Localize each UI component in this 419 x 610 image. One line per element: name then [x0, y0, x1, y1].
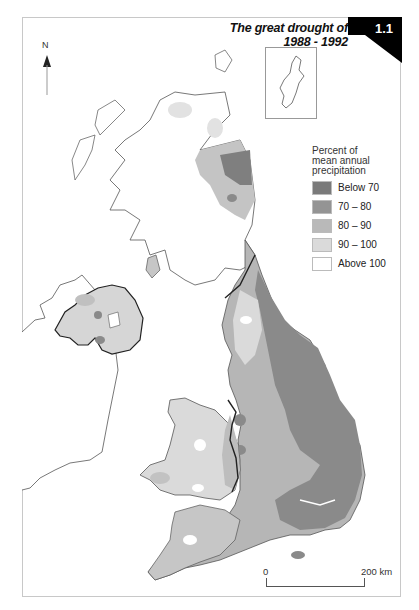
- legend-label: 70 – 80: [338, 201, 371, 212]
- legend-label: Above 100: [338, 258, 386, 269]
- legend-item: Below 70: [312, 180, 402, 195]
- legend-swatch: [312, 257, 332, 271]
- legend-item: 80 – 90: [312, 218, 402, 233]
- north-arrow-icon: [40, 40, 54, 100]
- scale-start-label: 0: [263, 566, 268, 577]
- legend-title-line: precipitation: [312, 166, 402, 176]
- legend-item: 70 – 80: [312, 199, 402, 214]
- legend-label: 90 – 100: [338, 239, 377, 250]
- scale-end-label: 200 km: [361, 566, 392, 577]
- legend-label: 80 – 90: [338, 220, 371, 231]
- legend-item: Above 100: [312, 256, 402, 271]
- scale-bar: [266, 578, 365, 587]
- figure-number: 1.1: [367, 21, 401, 36]
- legend: Percent of mean annual precipitation Bel…: [312, 146, 402, 271]
- map-title: The great drought of 1988 - 1992: [200, 21, 348, 49]
- legend-swatch: [312, 200, 332, 214]
- legend-swatch: [312, 238, 332, 252]
- legend-swatch: [312, 181, 332, 195]
- shetland-outline: [266, 48, 316, 118]
- legend-label: Below 70: [338, 182, 379, 193]
- uk-precipitation-map: [0, 0, 419, 610]
- legend-item: 90 – 100: [312, 237, 402, 252]
- legend-swatch: [312, 219, 332, 233]
- shetland-inset: [265, 47, 317, 119]
